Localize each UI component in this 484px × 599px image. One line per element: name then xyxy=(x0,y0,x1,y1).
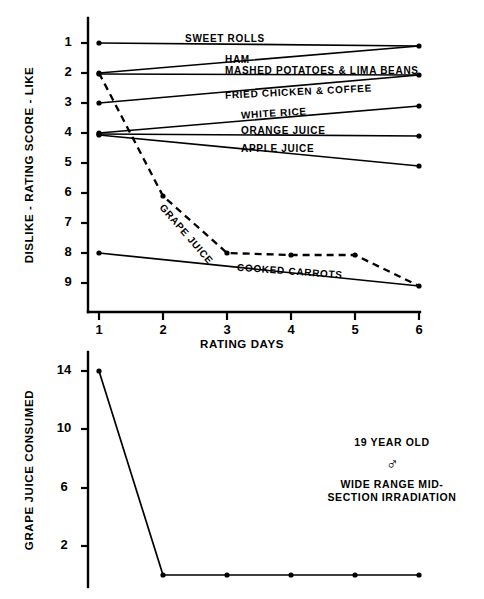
series-label-sweet-rolls: SWEET ROLLS xyxy=(185,33,265,44)
series-label-mashed-potatoes: MASHED POTATOES & LIMA BEANS xyxy=(225,65,419,76)
bottom-panel: 14 10 6 2 GRAPE JUICE CONSUMED 19 YEAR O… xyxy=(23,352,456,587)
annotation-treatment-line1: WIDE RANGE MID- xyxy=(341,478,444,490)
top-y-tick-label-5: 5 xyxy=(64,154,71,169)
top-x-tick-label-6: 6 xyxy=(415,322,422,337)
top-x-axis-title: RATING DAYS xyxy=(200,338,284,350)
top-y-tick-label-1: 1 xyxy=(64,34,71,49)
series-grape-juice xyxy=(99,73,422,289)
top-y-tick-label-8: 8 xyxy=(64,244,71,259)
bottom-y-tick-label-6: 6 xyxy=(60,479,67,494)
top-x-tick-label-1: 1 xyxy=(95,322,102,337)
series-label-fried-chicken: FRIED CHICKEN & COFFEE xyxy=(225,82,372,100)
figure-container: 1 2 3 4 5 6 7 8 9 DISLIKE - RATING SCORE… xyxy=(0,0,484,599)
series-label-ham: HAM xyxy=(225,54,250,65)
series-label-orange-juice: ORANGE JUICE xyxy=(241,125,326,136)
top-panel: 1 2 3 4 5 6 7 8 9 DISLIKE - RATING SCORE… xyxy=(23,18,423,350)
bottom-y-axis-title: GRAPE JUICE CONSUMED xyxy=(23,390,35,550)
bottom-y-tick-label-2: 2 xyxy=(60,537,67,552)
annotation-age: 19 YEAR OLD xyxy=(354,436,429,448)
top-y-tick-label-2: 2 xyxy=(64,64,71,79)
top-y-tick-label-4: 4 xyxy=(64,124,72,139)
bottom-y-tick-label-14: 14 xyxy=(57,362,72,377)
top-x-tick-label-2: 2 xyxy=(159,322,166,337)
male-symbol-icon: ♂ xyxy=(386,454,399,473)
top-y-tick-label-6: 6 xyxy=(64,184,71,199)
top-x-tick-label-4: 4 xyxy=(287,322,295,337)
series-grape-juice-consumed xyxy=(96,368,421,577)
top-y-tick-label-3: 3 xyxy=(64,94,71,109)
series-label-apple-juice: APPLE JUICE xyxy=(241,143,314,154)
chart-svg: 1 2 3 4 5 6 7 8 9 DISLIKE - RATING SCORE… xyxy=(0,0,484,599)
series-label-cooked-carrots: COOKED CARROTS xyxy=(237,262,343,281)
top-y-tick-label-9: 9 xyxy=(64,274,71,289)
bottom-y-tick-label-10: 10 xyxy=(57,420,71,435)
top-x-tick-label-3: 3 xyxy=(223,322,230,337)
series-label-white-rice: WHITE RICE xyxy=(241,106,307,121)
top-x-tick-label-5: 5 xyxy=(351,322,358,337)
annotation-treatment-line2: SECTION IRRADIATION xyxy=(327,491,456,503)
top-y-tick-label-7: 7 xyxy=(64,214,71,229)
top-y-axis-title: DISLIKE - RATING SCORE - LIKE xyxy=(23,67,35,264)
